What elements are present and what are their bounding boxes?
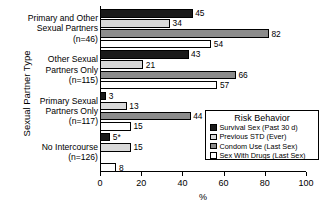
legend-swatch [210, 134, 217, 141]
x-tick [265, 172, 266, 176]
legend-item: Survival Sex (Past 30 d) [210, 123, 318, 132]
x-tick-label: 0 [85, 178, 115, 188]
legend-title: Risk Behavior [206, 113, 318, 123]
legend-label: Survival Sex (Past 30 d) [220, 123, 298, 132]
category-label: No Intercourse(n=126) [12, 142, 98, 163]
bar-value-label: 13 [129, 102, 138, 111]
category-label-line: (n=115) [12, 75, 98, 85]
bar-value-label: 43 [191, 50, 200, 59]
bar [100, 143, 131, 152]
bar-value-label: 82 [271, 30, 280, 39]
bar-value-label: 44 [193, 112, 202, 121]
legend-swatch [210, 152, 217, 159]
legend-label: Condom Use (Last Sex) [220, 142, 298, 151]
x-tick [306, 172, 307, 176]
bar [100, 71, 236, 80]
bar-value-label: 15 [133, 122, 142, 131]
bar-value-label: 34 [173, 19, 182, 28]
legend-item: Previous STD (Ever) [210, 132, 318, 141]
bar-value-label: 45 [195, 9, 204, 18]
bar [100, 50, 189, 59]
x-axis-line [100, 171, 306, 172]
x-tick-label: 40 [167, 178, 197, 188]
bar-value-label: 8 [119, 164, 124, 173]
category-labels: Primary and OtherSexual Partners(n=46)Ot… [12, 6, 98, 171]
category-label-line: Primary Sexual [12, 96, 98, 106]
bar [100, 102, 127, 111]
category-label-line: Partners Only [12, 65, 98, 75]
legend-swatch [210, 143, 217, 150]
category-label-line: Partners Only [12, 106, 98, 116]
bar [100, 9, 193, 18]
bar-value-label: 5* [113, 133, 121, 142]
category-label-line: No Intercourse [12, 142, 98, 152]
bar [100, 81, 217, 90]
bar-value-label: 54 [214, 40, 223, 49]
bar-value-label: 57 [220, 81, 229, 90]
bar-chart: Sexual Partner Type Primary and OtherSex… [0, 0, 326, 215]
legend-item: Condom Use (Last Sex) [210, 142, 318, 151]
x-tick [182, 172, 183, 176]
x-tick [141, 172, 142, 176]
x-tick-label: 80 [250, 178, 280, 188]
x-tick-label: 20 [126, 178, 156, 188]
bar [100, 60, 143, 69]
category-label-line: (n=117) [12, 116, 98, 126]
bar [100, 40, 211, 49]
x-tick [224, 172, 225, 176]
legend-swatch [210, 124, 217, 131]
bar [100, 112, 191, 121]
bar-value-label: 66 [238, 71, 247, 80]
category-label-line: Primary and Other [12, 13, 98, 23]
x-tick-label: 100 [291, 178, 321, 188]
legend-items: Survival Sex (Past 30 d)Previous STD (Ev… [206, 123, 318, 160]
bar [100, 133, 110, 142]
x-tick [100, 172, 101, 176]
bar-value-label: 3 [109, 92, 114, 101]
bar-value-label: 21 [146, 61, 155, 70]
bar [100, 19, 170, 28]
category-label: Primary and OtherSexual Partners(n=46) [12, 13, 98, 44]
category-label-line: Sexual Partners [12, 23, 98, 33]
bar [100, 122, 131, 131]
category-label-line: Other Sexual [12, 54, 98, 64]
x-axis-title: % [100, 192, 306, 202]
legend-label: Previous STD (Ever) [220, 132, 287, 141]
category-label: Primary SexualPartners Only(n=117) [12, 96, 98, 127]
bar-value-label: 15 [133, 143, 142, 152]
category-label-line: (n=126) [12, 152, 98, 162]
bar [100, 92, 106, 101]
legend: Risk Behavior Survival Sex (Past 30 d)Pr… [205, 110, 319, 160]
category-label-line: (n=46) [12, 34, 98, 44]
legend-item: Sex With Drugs (Last Sex) [210, 151, 318, 160]
bar [100, 163, 116, 172]
legend-label: Sex With Drugs (Last Sex) [220, 151, 306, 160]
category-label: Other SexualPartners Only(n=115) [12, 54, 98, 85]
x-tick-label: 60 [209, 178, 239, 188]
bar [100, 29, 269, 38]
